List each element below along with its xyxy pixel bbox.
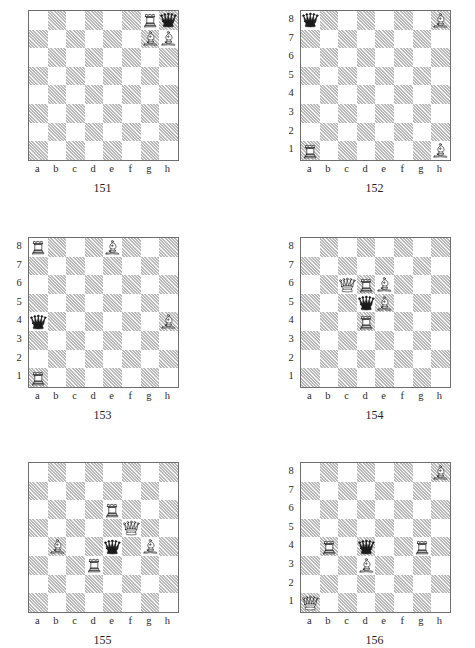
square-g3[interactable]: [141, 331, 160, 350]
square-b2[interactable]: [320, 123, 339, 142]
square-a1[interactable]: [301, 593, 320, 612]
square-c1[interactable]: [66, 141, 85, 160]
square-e6[interactable]: [103, 275, 122, 294]
square-a7[interactable]: [29, 30, 48, 49]
square-d5[interactable]: [357, 519, 376, 538]
square-b2[interactable]: [320, 575, 339, 594]
square-g5[interactable]: [413, 519, 432, 538]
square-d6[interactable]: [85, 275, 104, 294]
white-rook-icon[interactable]: [301, 141, 320, 160]
black-queen-icon[interactable]: [357, 537, 376, 556]
square-h2[interactable]: [159, 350, 178, 369]
square-f5[interactable]: [122, 294, 141, 313]
square-f1[interactable]: [394, 368, 413, 387]
square-g8[interactable]: [413, 11, 432, 30]
square-c2[interactable]: [66, 123, 85, 142]
square-g4[interactable]: [141, 85, 160, 104]
chessboard[interactable]: [300, 237, 451, 388]
square-f6[interactable]: [394, 500, 413, 519]
square-c6[interactable]: [66, 275, 85, 294]
square-d3[interactable]: [85, 331, 104, 350]
square-a4[interactable]: [29, 85, 48, 104]
square-b5[interactable]: [48, 294, 67, 313]
square-f8[interactable]: [394, 463, 413, 482]
square-b8[interactable]: [320, 238, 339, 257]
square-h1[interactable]: [431, 141, 450, 160]
square-e1[interactable]: [375, 368, 394, 387]
square-b2[interactable]: [48, 575, 67, 594]
square-g5[interactable]: [141, 294, 160, 313]
white-rook-icon[interactable]: [141, 11, 160, 30]
square-e4[interactable]: [375, 537, 394, 556]
square-g3[interactable]: [141, 556, 160, 575]
square-e5[interactable]: [103, 294, 122, 313]
square-d1[interactable]: [357, 141, 376, 160]
square-e2[interactable]: [375, 350, 394, 369]
square-a6[interactable]: [29, 275, 48, 294]
square-a2[interactable]: [29, 123, 48, 142]
square-a6[interactable]: [29, 500, 48, 519]
square-a5[interactable]: [29, 519, 48, 538]
square-a5[interactable]: [301, 519, 320, 538]
white-bishop-icon[interactable]: [431, 141, 450, 160]
square-e8[interactable]: [375, 238, 394, 257]
square-f8[interactable]: [122, 463, 141, 482]
square-b3[interactable]: [320, 556, 339, 575]
square-d3[interactable]: [85, 104, 104, 123]
square-c8[interactable]: [338, 238, 357, 257]
square-c2[interactable]: [338, 350, 357, 369]
square-f7[interactable]: [122, 30, 141, 49]
square-e1[interactable]: [103, 368, 122, 387]
square-e3[interactable]: [103, 331, 122, 350]
square-h1[interactable]: [159, 593, 178, 612]
square-h7[interactable]: [159, 257, 178, 276]
square-g4[interactable]: [141, 537, 160, 556]
square-g8[interactable]: [413, 463, 432, 482]
black-queen-icon[interactable]: [357, 294, 376, 313]
square-c7[interactable]: [66, 257, 85, 276]
square-g6[interactable]: [141, 500, 160, 519]
square-c3[interactable]: [338, 331, 357, 350]
square-f7[interactable]: [122, 257, 141, 276]
square-g3[interactable]: [413, 331, 432, 350]
square-d2[interactable]: [85, 123, 104, 142]
square-a4[interactable]: [29, 312, 48, 331]
square-b4[interactable]: [48, 85, 67, 104]
square-a1[interactable]: [29, 368, 48, 387]
square-c6[interactable]: [338, 275, 357, 294]
square-h6[interactable]: [431, 48, 450, 67]
square-h6[interactable]: [431, 500, 450, 519]
square-h2[interactable]: [159, 575, 178, 594]
square-c1[interactable]: [338, 368, 357, 387]
square-f6[interactable]: [122, 500, 141, 519]
square-d5[interactable]: [357, 294, 376, 313]
square-f2[interactable]: [394, 350, 413, 369]
square-g5[interactable]: [413, 67, 432, 86]
square-h6[interactable]: [159, 48, 178, 67]
square-a3[interactable]: [29, 556, 48, 575]
square-b2[interactable]: [320, 350, 339, 369]
square-d3[interactable]: [85, 556, 104, 575]
square-f3[interactable]: [122, 104, 141, 123]
square-c5[interactable]: [338, 67, 357, 86]
square-b4[interactable]: [320, 85, 339, 104]
square-a2[interactable]: [29, 575, 48, 594]
square-e7[interactable]: [375, 30, 394, 49]
square-b5[interactable]: [320, 294, 339, 313]
square-e7[interactable]: [375, 257, 394, 276]
square-c5[interactable]: [66, 519, 85, 538]
chessboard[interactable]: [28, 237, 179, 388]
square-a3[interactable]: [301, 104, 320, 123]
square-g7[interactable]: [413, 257, 432, 276]
square-b6[interactable]: [320, 500, 339, 519]
square-b1[interactable]: [48, 593, 67, 612]
square-f7[interactable]: [394, 30, 413, 49]
square-a3[interactable]: [29, 104, 48, 123]
square-c4[interactable]: [66, 312, 85, 331]
square-c2[interactable]: [338, 575, 357, 594]
square-h7[interactable]: [431, 257, 450, 276]
square-h7[interactable]: [431, 482, 450, 501]
square-d6[interactable]: [357, 500, 376, 519]
white-bishop-icon[interactable]: [141, 537, 160, 556]
square-g4[interactable]: [141, 312, 160, 331]
